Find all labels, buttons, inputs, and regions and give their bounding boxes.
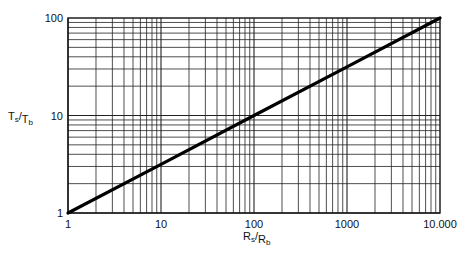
x-tick-label: 1 <box>65 218 71 230</box>
y-axis-label: Ts/Tb <box>8 110 34 127</box>
y-tick-label: 10 <box>51 110 63 122</box>
x-axis-label: Rs/Rb <box>243 230 271 247</box>
y-tick-labels: 110100 <box>45 12 63 219</box>
y-tick-label: 100 <box>45 12 63 24</box>
x-tick-label: 10.000 <box>423 218 457 230</box>
y-tick-label: 1 <box>57 207 63 219</box>
x-tick-labels: 110100100010.000 <box>65 218 457 230</box>
chart: 110100100010.000 110100 Rs/Rb Ts/Tb <box>0 0 468 262</box>
x-tick-label: 1000 <box>335 218 359 230</box>
x-tick-label: 10 <box>155 218 167 230</box>
x-tick-label: 100 <box>245 218 263 230</box>
